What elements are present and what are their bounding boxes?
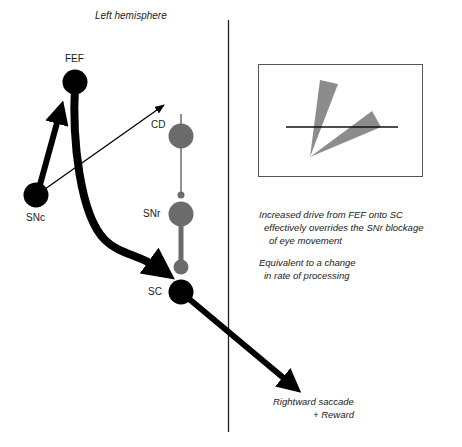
label-sc: SC: [148, 286, 162, 297]
cd-terminal-dot: [178, 192, 185, 199]
label-fef: FEF: [65, 53, 84, 64]
fef-to-sc-arrow: [74, 85, 162, 270]
outcome-label: Rightward saccade + Reward: [273, 395, 354, 421]
annotation-fef-drive-line3: of eye movement: [259, 234, 423, 247]
snr-terminal-dot: [174, 260, 189, 275]
annotation-fef-drive-line1: Increased drive from FEF onto SC: [259, 208, 423, 221]
hemisphere-title: Left hemisphere: [95, 9, 167, 22]
inset-panel: [259, 65, 423, 177]
label-snr: SNr: [143, 208, 160, 219]
annotation-fef-drive-line2: effectively overrides the SNr blockage: [259, 221, 423, 234]
node-fef: [63, 70, 88, 95]
annotation-rate-change: Equivalent to a change in rate of proces…: [259, 256, 356, 282]
label-snc: SNc: [26, 212, 45, 223]
annotation-rate-change-line1: Equivalent to a change: [259, 256, 356, 269]
outcome-label-line2: + Reward: [273, 408, 354, 421]
label-cd: CD: [151, 119, 165, 130]
sc-to-saccade-arrow: [182, 293, 292, 385]
node-cd: [169, 124, 194, 149]
node-snc: [24, 183, 49, 208]
annotation-fef-drive: Increased drive from FEF onto SC effecti…: [259, 208, 423, 247]
outcome-label-line1: Rightward saccade: [273, 395, 354, 408]
node-snr: [169, 202, 194, 227]
annotation-rate-change-line2: in rate of processing: [259, 269, 356, 282]
node-sc: [169, 280, 194, 305]
